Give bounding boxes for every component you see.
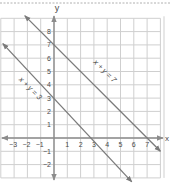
graph-canvas: xy −3−2−11234567−2−112345678 x + y = 7x … [0,0,171,190]
y-tick-label: −2 [43,161,51,168]
y-tick-label: 5 [47,68,51,75]
series-lines [3,16,161,182]
x-tick-label: 4 [105,141,109,148]
x-tick-label: 7 [145,141,149,148]
series-line-0 [25,16,161,152]
y-tick-label: 2 [47,108,51,115]
x-tick-label: 5 [119,141,123,148]
grid-lines [1,16,164,178]
x-tick-label: 1 [65,141,69,148]
x-tick-label: 6 [132,141,136,148]
y-tick-label: −1 [43,148,51,155]
y-tick-label: 7 [47,41,51,48]
x-tick-label: −3 [9,141,17,148]
y-tick-label: 6 [47,55,51,62]
coordinate-plane-graph: xy −3−2−11234567−2−112345678 x + y = 7x … [0,0,171,190]
x-tick-label: 2 [79,141,83,148]
line-label: x + y = 7 [91,57,119,85]
y-tick-label: 4 [47,81,51,88]
x-axis-label: x [165,134,169,143]
y-tick-label: 1 [47,121,51,128]
y-axis-label: y [55,3,60,13]
y-tick-label: 8 [47,28,51,35]
x-tick-label: −2 [22,141,30,148]
